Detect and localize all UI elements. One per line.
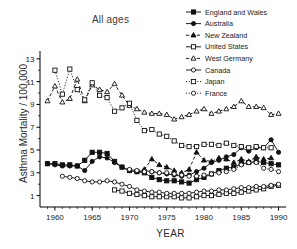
data-point-filled-circle: [45, 162, 49, 166]
legend-item-new-zealand[interactable]: New Zealand: [186, 31, 247, 40]
data-point-open-triangle: [172, 117, 177, 121]
data-point-open-circle: [105, 179, 109, 183]
legend-item-canada[interactable]: Canada: [186, 66, 230, 75]
data-series-layer: [45, 67, 281, 200]
legend-item-france[interactable]: France: [186, 89, 227, 98]
data-point-open-circle: [254, 160, 258, 164]
data-point-filled-circle: [120, 165, 124, 169]
data-point-open-square: [232, 191, 236, 195]
data-point-open-square: [269, 146, 273, 150]
data-point-open-square: [180, 143, 184, 147]
data-point-open-circle: [187, 174, 191, 178]
data-point-filled-square: [165, 179, 169, 183]
data-point-open-triangle: [67, 96, 72, 100]
x-tick-label: 1960: [46, 213, 64, 222]
data-point-open-circle: [202, 173, 206, 177]
legend-label: Canada: [205, 66, 230, 75]
data-point-open-circle: [135, 168, 139, 172]
data-point-filled-circle: [90, 159, 94, 163]
data-point-open-circle: [142, 189, 146, 193]
series-line: [47, 79, 278, 119]
data-point-open-circle: [194, 190, 198, 194]
legend-item-australia[interactable]: Australia: [186, 19, 233, 28]
data-point-open-square: [209, 194, 213, 198]
data-point-open-circle: [83, 179, 87, 183]
data-point-open-circle: [75, 176, 79, 180]
data-point-filled-circle: [202, 166, 206, 170]
legend-item-japan[interactable]: Japan: [186, 77, 225, 86]
y-tick-label: 9: [30, 100, 35, 109]
data-point-filled-triangle: [191, 33, 196, 37]
data-point-filled-triangle: [157, 162, 162, 166]
data-point-open-square: [135, 192, 139, 196]
data-point-open-square: [127, 101, 131, 105]
data-point-open-circle: [202, 189, 206, 193]
data-point-open-circle: [269, 167, 273, 171]
data-point-open-triangle: [142, 110, 147, 114]
legend-label: West Germany: [205, 54, 253, 63]
data-point-open-circle: [232, 187, 236, 191]
data-point-filled-triangle: [209, 159, 214, 163]
data-point-open-triangle: [45, 98, 50, 102]
data-point-open-square: [120, 106, 124, 110]
data-point-filled-circle: [60, 164, 64, 168]
data-point-filled-square: [172, 179, 176, 183]
data-point-open-triangle: [179, 114, 184, 118]
data-point-open-circle: [209, 189, 213, 193]
data-point-open-triangle: [157, 111, 162, 115]
data-point-open-square: [98, 93, 102, 97]
data-point-open-triangle: [97, 87, 102, 91]
y-tick-label: 11: [26, 78, 35, 87]
data-point-open-square: [112, 109, 116, 113]
data-point-open-square: [165, 134, 169, 138]
data-point-open-square: [239, 144, 243, 148]
data-point-filled-circle: [269, 138, 273, 142]
y-tick-label: 7: [30, 123, 35, 132]
data-point-open-circle: [157, 171, 161, 175]
data-point-filled-triangle: [164, 164, 169, 168]
data-point-open-circle: [217, 188, 221, 192]
data-point-open-square: [247, 146, 251, 150]
data-point-open-square: [217, 143, 221, 147]
data-point-filled-triangle: [201, 158, 206, 162]
data-point-open-triangle: [224, 106, 229, 110]
data-point-open-triangle: [60, 100, 65, 104]
data-point-filled-circle: [232, 152, 236, 156]
legend-item-west-germany[interactable]: West Germany: [186, 54, 253, 63]
data-point-open-triangle: [209, 111, 214, 115]
series-west-germany: [45, 77, 281, 121]
data-point-open-circle: [209, 172, 213, 176]
plot-area: 1357911131960196519701975198019851990 En…: [0, 0, 297, 249]
data-point-open-circle: [142, 170, 146, 174]
data-point-open-square: [120, 189, 124, 193]
data-point-open-square: [239, 190, 243, 194]
legend-item-england-and-wales[interactable]: England and Wales: [186, 8, 267, 17]
data-point-open-circle: [180, 173, 184, 177]
data-point-filled-circle: [68, 164, 72, 168]
data-point-open-square: [112, 188, 116, 192]
data-point-filled-square: [180, 180, 184, 184]
data-point-open-square: [150, 127, 154, 131]
legend-label: England and Wales: [205, 8, 267, 17]
data-point-open-circle: [172, 191, 176, 195]
data-point-open-square: [157, 132, 161, 136]
series-australia: [45, 138, 280, 179]
data-point-open-circle: [150, 170, 154, 174]
data-point-open-triangle: [134, 106, 139, 110]
y-tick-label: 5: [30, 146, 35, 155]
legend-label: Australia: [205, 19, 233, 28]
data-point-open-square: [142, 194, 146, 198]
data-point-filled-square: [105, 151, 109, 155]
data-point-open-circle: [180, 191, 184, 195]
legend-item-united-states[interactable]: United States: [186, 42, 249, 51]
data-point-open-square: [202, 142, 206, 146]
data-point-open-square: [75, 88, 79, 92]
data-point-open-circle: [127, 184, 131, 188]
data-point-open-square: [157, 195, 161, 199]
data-point-open-triangle: [191, 56, 196, 60]
data-point-filled-circle: [191, 22, 195, 26]
data-point-open-square: [60, 92, 64, 96]
data-point-open-square: [180, 196, 184, 200]
data-point-open-square: [83, 98, 87, 102]
legend-label: France: [205, 89, 227, 98]
